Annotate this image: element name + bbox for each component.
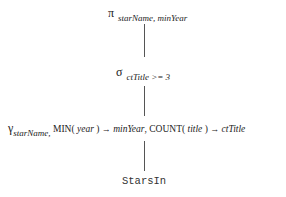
projection-attributes: starName, minYear [118,13,187,23]
min-alias: minYear [113,124,144,134]
grouping-node: γstarName, MIN( year ) → minYear, COUNT(… [8,121,245,136]
count-argument: title [188,124,203,134]
selection-condition: ctTitle >= 3 [126,72,170,82]
arrow-icon: → [210,124,219,134]
sigma-symbol: σ [116,65,122,79]
min-close-paren: ) [96,124,99,134]
min-function: MIN( [53,124,75,134]
count-close-paren: ) [205,124,208,134]
edge-projection-selection [144,24,145,57]
edge-grouping-relation [144,141,145,171]
selection-node: σ ctTitle >= 3 [116,62,170,80]
edge-selection-grouping [144,86,145,116]
arrow-icon: → [102,124,111,134]
count-function: COUNT( [149,124,185,134]
pi-symbol: π [108,6,114,20]
projection-node: π starName, minYear [108,3,187,21]
aggregate-separator: , [144,124,146,134]
relation-name: StarsIn [122,175,166,187]
min-argument: year [77,124,94,134]
count-alias: ctTitle [222,124,246,134]
relation-node: StarsIn [122,175,166,187]
grouping-attribute: starName, [13,128,50,138]
